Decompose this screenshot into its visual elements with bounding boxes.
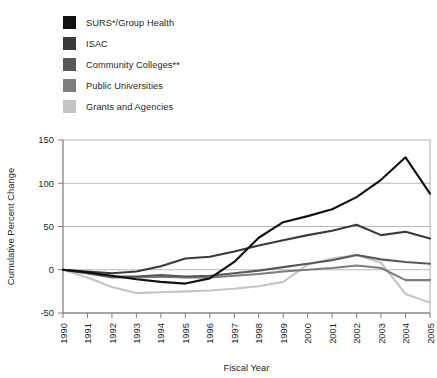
x-tick-marks bbox=[63, 313, 430, 318]
legend-item: Public Universities bbox=[63, 75, 363, 96]
x-tick-label: 2005 bbox=[425, 323, 436, 344]
legend-swatch-icon bbox=[63, 16, 76, 29]
x-tick-label: 1996 bbox=[204, 323, 215, 344]
x-tick-label: 2004 bbox=[400, 323, 411, 344]
y-tick-label: 100 bbox=[38, 178, 54, 189]
legend-item: Community Colleges** bbox=[63, 54, 363, 75]
x-tick-label: 1992 bbox=[107, 323, 118, 344]
legend-item-label: SURS*/Group Health bbox=[86, 18, 174, 28]
chart-plot-area: 150100500-50 199019911992199319941995199… bbox=[0, 130, 437, 378]
x-tick-label: 1995 bbox=[180, 323, 191, 344]
x-tick-labels: 1990199119921993199419951996199719981999… bbox=[58, 323, 436, 344]
chart-figure: SURS*/Group Health ISAC Community Colleg… bbox=[0, 0, 437, 378]
legend-item-label: Community Colleges** bbox=[86, 60, 180, 70]
x-tick-label: 1999 bbox=[278, 323, 289, 344]
x-axis-title: Fiscal Year bbox=[224, 362, 270, 373]
x-tick-label: 1993 bbox=[131, 323, 142, 344]
data-series-group bbox=[63, 157, 430, 302]
legend-swatch-icon bbox=[63, 79, 76, 92]
line-chart-svg: 150100500-50 199019911992199319941995199… bbox=[0, 130, 437, 378]
y-tick-label: 50 bbox=[44, 221, 54, 232]
x-tick-label: 2002 bbox=[351, 323, 362, 344]
x-tick-label: 1997 bbox=[229, 323, 240, 344]
x-tick-label: 1991 bbox=[82, 323, 93, 344]
legend-item-label: ISAC bbox=[86, 39, 108, 49]
legend-item: ISAC bbox=[63, 33, 363, 54]
legend-item-label: Public Universities bbox=[86, 81, 163, 91]
legend-item: SURS*/Group Health bbox=[63, 12, 363, 33]
x-tick-label: 1990 bbox=[58, 323, 69, 344]
legend-swatch-icon bbox=[63, 58, 76, 71]
y-tick-labels: 150100500-50 bbox=[38, 134, 54, 318]
y-tick-label: -50 bbox=[40, 307, 54, 318]
y-tick-label: 0 bbox=[49, 264, 54, 275]
x-tick-label: 1998 bbox=[253, 323, 264, 344]
y-tick-marks bbox=[58, 140, 63, 313]
legend-swatch-icon bbox=[63, 100, 76, 113]
legend-swatch-icon bbox=[63, 37, 76, 50]
x-tick-label: 2003 bbox=[376, 323, 387, 344]
chart-legend: SURS*/Group Health ISAC Community Colleg… bbox=[63, 12, 363, 117]
x-tick-label: 2001 bbox=[327, 323, 338, 344]
x-tick-label: 2000 bbox=[302, 323, 313, 344]
legend-item-label: Grants and Agencies bbox=[86, 102, 173, 112]
x-tick-label: 1994 bbox=[155, 323, 166, 344]
legend-item: Grants and Agencies bbox=[63, 96, 363, 117]
series-line bbox=[63, 255, 430, 303]
y-tick-label: 150 bbox=[38, 134, 54, 145]
series-line bbox=[63, 157, 430, 283]
y-axis-title: Cumulative Percent Change bbox=[5, 168, 16, 285]
